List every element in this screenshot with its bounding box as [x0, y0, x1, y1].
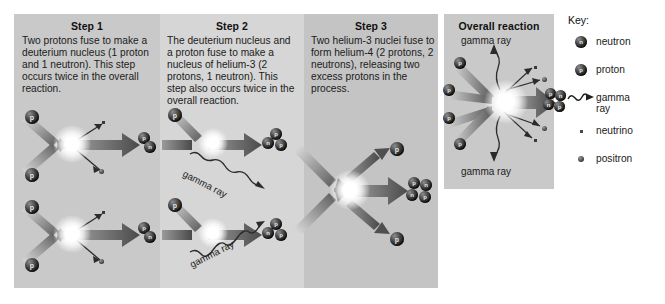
proton-icon: p — [168, 108, 182, 122]
key-label: neutrino — [596, 124, 633, 136]
positron-dot-icon — [566, 152, 596, 166]
key-label: neutron — [596, 35, 631, 47]
proton-icon: p — [454, 138, 466, 150]
proton-icon: p — [390, 142, 404, 156]
key-label: proton — [596, 63, 625, 75]
proton-icon: p — [25, 258, 39, 272]
neutrino-dot-icon — [566, 124, 596, 138]
neutrino-icon — [102, 121, 105, 124]
proton-icon: p — [168, 198, 182, 212]
proton-icon: p — [390, 232, 404, 246]
proton-icon: p — [25, 200, 39, 214]
key-title: Key: — [568, 14, 662, 26]
fusion-flash-step3 — [330, 170, 370, 210]
fusion-flash-overall — [484, 80, 528, 124]
overall-reaction-title: Overall reaction — [444, 20, 554, 32]
neutrino-icon — [534, 139, 537, 142]
step-2-title: Step 2 — [160, 20, 304, 32]
key-label: gamma ray — [596, 91, 644, 114]
proton-sphere-icon: p — [566, 63, 596, 77]
key-item-positron: positron — [566, 152, 662, 171]
fusion-flash-step1-top — [53, 125, 91, 163]
neutrino-icon — [102, 211, 105, 214]
proton-icon: p — [443, 84, 455, 96]
fusion-flash-step1-bottom — [53, 215, 91, 253]
key-item-gamma-ray: gamma ray — [566, 91, 662, 115]
key-item-neutrino: neutrino — [566, 124, 662, 143]
neutrino-icon — [534, 66, 537, 69]
neutron-sphere-icon: n — [566, 35, 596, 49]
positron-icon — [99, 259, 104, 264]
positron-icon — [542, 77, 547, 82]
key-item-neutron: n neutron — [566, 35, 662, 54]
overall-gamma-ray-top-label: gamma ray — [461, 35, 511, 46]
positron-icon — [542, 126, 547, 131]
step-1-description: Two protons fuse to make a deuterium nuc… — [22, 35, 154, 95]
step-2-description: The deuterium nucleus and a proton fuse … — [167, 35, 298, 108]
step-3-title: Step 3 — [304, 20, 438, 32]
positron-icon — [99, 169, 104, 174]
key-legend: Key: n neutron p proton gamma ray neutri… — [566, 14, 662, 194]
gamma-ray-wave-icon — [566, 91, 596, 105]
proton-icon: p — [443, 112, 455, 124]
key-item-proton: p proton — [566, 63, 662, 82]
proton-icon: p — [25, 168, 39, 182]
proton-icon: p — [454, 57, 466, 69]
step-1-title: Step 1 — [14, 20, 160, 32]
proton-icon: p — [25, 110, 39, 124]
step-3-description: Two helium-3 nuclei fuse to form helium-… — [311, 35, 435, 95]
helium-4-nucleus-icon: p n n p — [406, 177, 436, 207]
key-label: positron — [596, 152, 632, 164]
